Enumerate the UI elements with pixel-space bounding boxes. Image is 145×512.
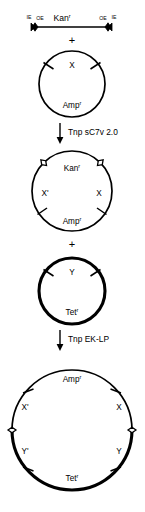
transposon-label-ie-left: IE (27, 14, 32, 20)
plasmid-target-y-bottom-label: Tetr (66, 307, 79, 317)
transposon-label-oe-right: OE (99, 15, 107, 21)
step-tnp-eklp: Tnp EK-LP (57, 330, 110, 351)
plasmid-kan-insert-left-label: X' (41, 189, 48, 198)
step-tnp-sc7v: Tnp sC7v 2.0 (57, 123, 119, 144)
transposon-cargo-label: Kanr (53, 13, 70, 23)
arrow-down-icon (57, 344, 64, 351)
arrow-down-icon (57, 137, 64, 144)
transposon-assembly-diagram: IE OE OE IE Kanr + X Ampr (0, 0, 145, 512)
plasmid-kan-insert-bottom-label: Ampr (63, 216, 82, 226)
plus-operator-2: + (69, 238, 75, 250)
step-tnp-eklp-label: Tnp EK-LP (68, 334, 109, 344)
plasmid-cointegrate-lower-left-label: Y' (21, 447, 28, 456)
tick-mark-lower-left (38, 208, 48, 215)
plasmid-cointegrate-top-label: Ampr (63, 374, 82, 384)
plasmid-target-x: X Ampr (39, 51, 105, 117)
plasmid-cointegrate: Ampr X' X Y' Y Tetr (8, 370, 136, 490)
plasmid-cointegrate-bottom-label: Tetr (66, 473, 79, 483)
figure-canvas: IE OE OE IE Kanr + X Ampr (0, 0, 145, 512)
transposon-label-ie-right: IE (112, 14, 117, 20)
plasmid-target-y-top-label: Y (69, 268, 75, 277)
step-tnp-sc7v-label: Tnp sC7v 2.0 (68, 127, 118, 137)
plasmid-kan-insert-right-label: X (96, 189, 102, 198)
diamond-marker-left (8, 427, 16, 433)
plus-operator-1: + (69, 34, 75, 46)
tick-mark-lower-right (97, 208, 107, 215)
plasmid-kan-insert-top-label: Kanr (64, 163, 81, 173)
plasmid-target-x-bottom-label: Ampr (63, 100, 82, 110)
plasmid-target-y: Y Tetr (39, 258, 105, 324)
plasmid-kan-insert: Kanr X' X Ampr (32, 151, 112, 231)
transposon-donor: IE OE OE IE Kanr (27, 13, 117, 32)
plasmid-target-x-top-label: X (69, 61, 75, 70)
transposon-cargo-superscript: r (69, 13, 71, 19)
plasmid-cointegrate-upper-right-label: X (116, 403, 122, 412)
plasmid-cointegrate-upper-left-label: X' (21, 403, 28, 412)
transposon-label-oe-left: OE (36, 15, 44, 21)
transposon-cargo-text: Kan (53, 13, 69, 23)
diamond-marker-right (128, 427, 136, 433)
plasmid-cointegrate-lower-right-label: Y (116, 447, 122, 456)
